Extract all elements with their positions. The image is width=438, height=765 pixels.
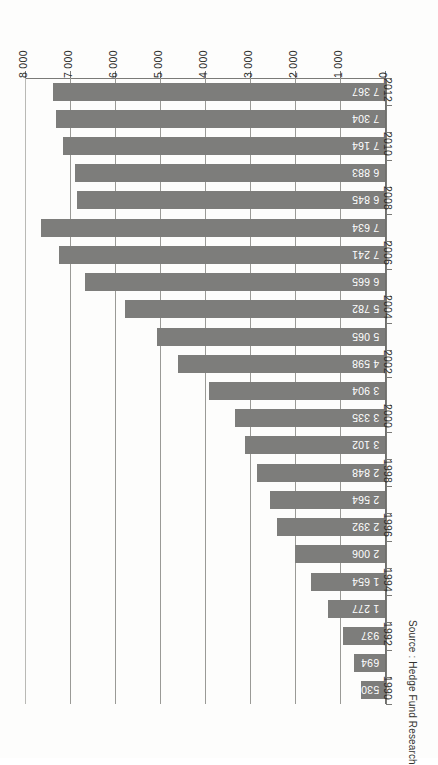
category-tick-mark [386, 432, 392, 433]
bar-row: 2 006 [25, 545, 385, 563]
category-tick-mark [386, 269, 392, 270]
category-tick-label: 2002 [382, 350, 394, 374]
bar [75, 164, 385, 182]
value-tick-label: 2 000 [287, 50, 299, 78]
bar [77, 191, 385, 209]
bar-value-label: 530 [357, 681, 383, 699]
bar [56, 110, 385, 128]
bar-row: 7 241 [25, 246, 385, 264]
bar-row: 2 564 [25, 491, 385, 509]
bar [85, 273, 385, 291]
bar [41, 219, 385, 237]
category-tick-mark [386, 704, 392, 705]
bar-value-label: 6 845 [348, 191, 383, 209]
category-tick-mark [386, 160, 392, 161]
bar-value-label: 4 598 [348, 355, 383, 373]
bar-row: 530 [25, 681, 385, 699]
bar-row: 7 634 [25, 219, 385, 237]
bar-value-label: 6 883 [348, 164, 383, 182]
category-tick-mark [386, 541, 392, 542]
plot-area: 7 3677 3047 1646 8836 8457 6347 2416 665… [25, 78, 385, 704]
bar-row: 3 335 [25, 409, 385, 427]
value-tick-label: 4 000 [197, 50, 209, 78]
bar-value-label: 3 904 [348, 382, 383, 400]
bar-row: 694 [25, 654, 385, 672]
bar-row: 4 598 [25, 355, 385, 373]
value-tick-label: 8 000 [17, 50, 29, 78]
bar-value-label: 2 006 [348, 545, 383, 563]
bar-value-label: 5 065 [348, 328, 383, 346]
category-tick-mark [386, 377, 392, 378]
category-tick-mark [386, 214, 392, 215]
bar-value-label: 7 241 [348, 246, 383, 264]
bar-row: 7 367 [25, 83, 385, 101]
bar-value-label: 2 564 [348, 491, 383, 509]
bar-row: 7 304 [25, 110, 385, 128]
bar-row: 937 [25, 627, 385, 645]
bar [63, 137, 385, 155]
category-tick-label: 1990 [382, 676, 394, 700]
bar-value-label: 7 367 [348, 83, 383, 101]
value-tick-label: 7 000 [62, 50, 74, 78]
bar-row: 3 102 [25, 436, 385, 454]
bar-value-label: 7 164 [348, 137, 383, 155]
category-tick-mark [386, 105, 392, 106]
category-tick-mark [386, 595, 392, 596]
bar-value-label: 7 634 [348, 219, 383, 237]
bar [125, 300, 385, 318]
bar-row: 1 277 [25, 600, 385, 618]
bar-value-label: 937 [357, 627, 383, 645]
bar-row: 7 164 [25, 137, 385, 155]
category-tick-label: 2006 [382, 241, 394, 265]
category-tick-label: 1994 [382, 568, 394, 592]
category-tick-label: 1998 [382, 459, 394, 483]
bar-row: 2 848 [25, 464, 385, 482]
bar-value-label: 2 392 [348, 518, 383, 536]
category-axis: 2012201020082006200420022000199819961994… [386, 78, 438, 704]
bar-value-label: 694 [357, 654, 383, 672]
bar-value-label: 2 848 [348, 464, 383, 482]
bar-row: 5 782 [25, 300, 385, 318]
bar-value-label: 1 277 [348, 600, 383, 618]
category-tick-label: 2004 [382, 295, 394, 319]
bar-value-label: 3 102 [348, 436, 383, 454]
category-tick-label: 1992 [382, 622, 394, 646]
source-note: Source : Hedge Fund Research [407, 620, 418, 765]
bar-row: 1 654 [25, 573, 385, 591]
bar-row: 6 665 [25, 273, 385, 291]
category-tick-label: 1996 [382, 513, 394, 537]
bar-row: 3 904 [25, 382, 385, 400]
bar-value-label: 1 654 [348, 573, 383, 591]
value-tick-label: 5 000 [152, 50, 164, 78]
bar-value-label: 7 304 [348, 110, 383, 128]
bar [59, 246, 385, 264]
bar-value-label: 3 335 [348, 409, 383, 427]
bar-value-label: 6 665 [348, 273, 383, 291]
bar-row: 5 065 [25, 328, 385, 346]
bar [53, 83, 385, 101]
category-tick-label: 2000 [382, 404, 394, 428]
value-tick-label: 3 000 [242, 50, 254, 78]
bar-value-label: 5 782 [348, 300, 383, 318]
category-tick-label: 2012 [382, 78, 394, 102]
category-tick-label: 2010 [382, 132, 394, 156]
value-tick-label: 6 000 [107, 50, 119, 78]
value-tick-label: 1 000 [332, 50, 344, 78]
category-tick-mark [386, 323, 392, 324]
category-tick-mark [386, 486, 392, 487]
bar-row: 6 845 [25, 191, 385, 209]
category-tick-label: 2008 [382, 186, 394, 210]
bar-row: 6 883 [25, 164, 385, 182]
bar-row: 2 392 [25, 518, 385, 536]
category-tick-mark [386, 650, 392, 651]
